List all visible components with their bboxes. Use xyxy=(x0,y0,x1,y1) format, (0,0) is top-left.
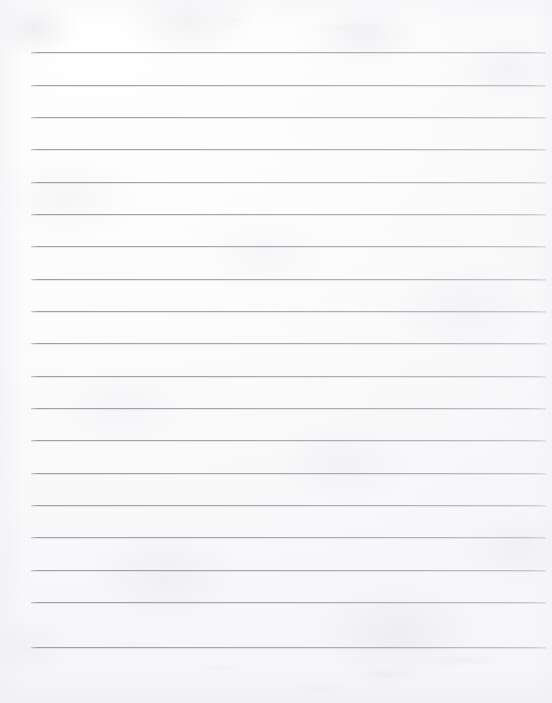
ruled-line xyxy=(31,246,546,247)
ruled-line xyxy=(31,214,546,215)
ruled-line xyxy=(31,182,546,183)
ruled-line xyxy=(31,505,546,506)
ruled-line xyxy=(31,343,546,344)
ruled-line xyxy=(31,376,546,377)
ruled-line xyxy=(31,537,546,538)
ruled-line xyxy=(31,149,546,150)
ruled-line xyxy=(31,570,546,571)
ruled-line xyxy=(31,85,546,86)
ruled-line xyxy=(31,117,546,118)
ruled-lines-layer xyxy=(0,0,552,703)
ruled-line xyxy=(31,279,546,280)
ruled-line xyxy=(31,408,546,409)
ruled-line xyxy=(31,52,546,53)
ruled-line xyxy=(31,440,546,441)
scanned-page xyxy=(0,0,552,703)
ruled-line xyxy=(31,473,546,474)
ruled-line xyxy=(31,602,546,603)
ruled-line xyxy=(31,311,546,312)
ruled-line xyxy=(31,647,546,648)
